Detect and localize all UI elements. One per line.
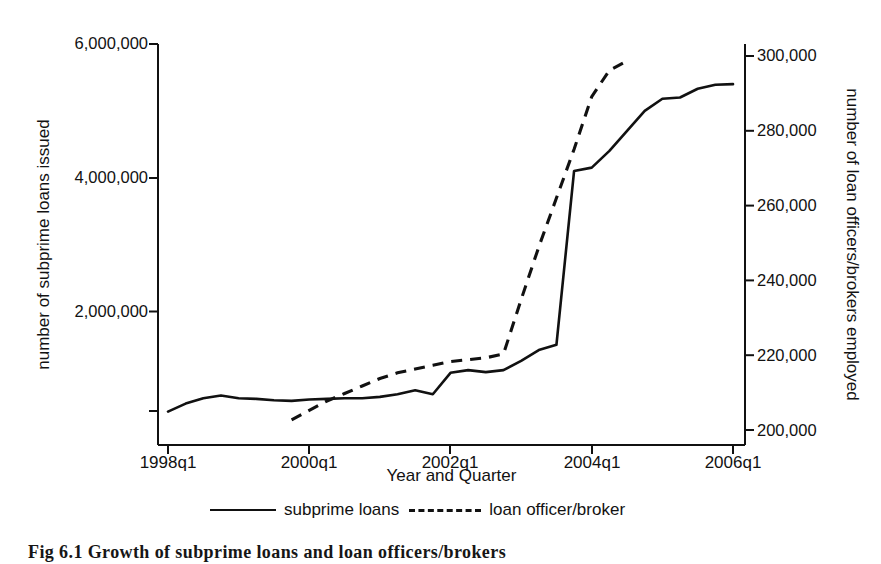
legend: subprime loans loan officer/broker xyxy=(210,497,625,523)
legend-label-subprime-loans: subprime loans xyxy=(284,500,399,520)
plot-area xyxy=(0,0,881,564)
x-axis-ticks xyxy=(168,445,733,454)
left-axis-ticks xyxy=(149,44,158,411)
legend-swatch-dashed-line-icon xyxy=(409,509,481,512)
legend-item-subprime-loans: subprime loans xyxy=(210,500,399,520)
series-line-subprime-loans xyxy=(168,84,733,411)
legend-item-loan-officer-broker: loan officer/broker xyxy=(399,500,625,520)
series-line-loan-officer-broker xyxy=(292,61,627,420)
right-axis-ticks xyxy=(745,56,754,430)
legend-label-loan-officer-broker: loan officer/broker xyxy=(489,500,625,520)
figure-caption: Fig 6.1 Growth of subprime loans and loa… xyxy=(28,542,506,563)
legend-swatch-solid-line-icon xyxy=(210,509,276,511)
figure-container: number of subprime loans issued number o… xyxy=(0,0,881,564)
